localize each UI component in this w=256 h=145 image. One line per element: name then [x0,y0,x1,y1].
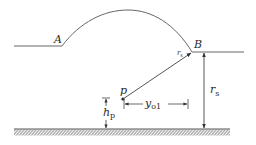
label-hp: hp [103,106,115,120]
label-yo1: yo1 [144,97,161,111]
vector-p-to-b [123,53,191,99]
label-a: A [53,33,62,46]
ground-hatching [14,130,230,136]
diagram-canvas: A B p rs rs yo1 hp [0,0,256,145]
label-rs-vertical: rs [210,83,219,98]
label-rs-near-b: rs [177,49,183,58]
label-b: B [193,38,202,51]
terrain-profile [14,10,244,52]
ground [14,129,230,136]
hill-arc [62,10,192,52]
label-p: p [120,84,127,97]
